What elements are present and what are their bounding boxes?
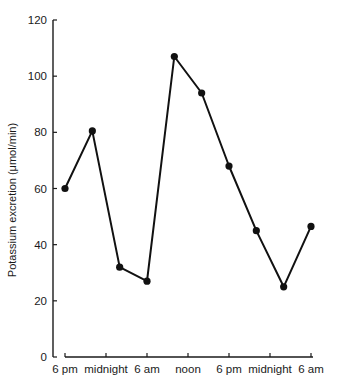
data-point-marker [198,89,205,96]
data-point-marker [171,53,178,60]
data-point-marker [225,162,232,169]
data-point-marker [89,127,96,134]
y-axis: 020406080100120 [28,14,57,363]
line-chart: 020406080100120 6 pmmidnight6 amnoon6 pm… [0,0,341,385]
series-line [65,57,311,287]
x-tick-label: 6 pm [52,363,78,375]
x-tick-label: 6 pm [216,363,242,375]
data-point-marker [143,278,150,285]
y-tick-label: 20 [34,295,47,307]
x-tick-label: 6 am [134,363,160,375]
y-tick-label: 60 [34,183,47,195]
data-point-marker [116,264,123,271]
data-point-marker [253,227,260,234]
x-axis: 6 pmmidnight6 amnoon6 pmmidnight6 am [52,353,324,375]
x-tick-label: midnight [84,363,128,375]
y-tick-label: 40 [34,239,47,251]
data-point-marker [307,223,314,230]
y-tick-label: 0 [41,351,47,363]
data-series [61,53,314,290]
y-tick-label: 100 [28,70,47,82]
x-tick-label: midnight [248,363,292,375]
x-tick-label: noon [175,363,201,375]
y-axis-title: Potassium excretion (μmol/min) [6,123,18,277]
x-tick-label: 6 am [298,363,324,375]
data-point-marker [280,283,287,290]
y-tick-label: 80 [34,126,47,138]
data-point-marker [61,185,68,192]
y-tick-label: 120 [28,14,47,26]
